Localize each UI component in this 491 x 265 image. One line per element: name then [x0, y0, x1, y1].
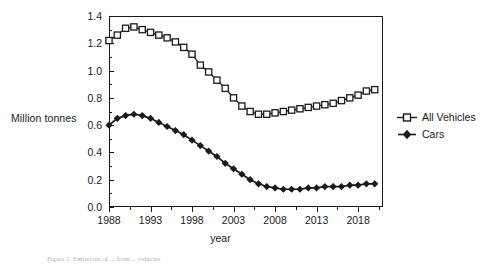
series-all-vehicles: [106, 24, 378, 118]
data-point-marker: [131, 24, 137, 30]
x-axis-tick: [358, 207, 359, 212]
data-point-marker: [164, 35, 170, 41]
x-axis-tick-label: 2018: [346, 214, 369, 226]
data-point-marker: [371, 180, 378, 187]
data-point-marker: [247, 108, 253, 114]
data-point-marker: [271, 184, 278, 191]
filled-diamond-marker-icon: [396, 127, 418, 140]
y-axis-tick-label: 0.8: [76, 92, 102, 104]
y-axis-tick-label: 0.4: [76, 146, 102, 158]
x-axis-minor-tick: [379, 207, 380, 210]
data-point-marker: [372, 87, 378, 93]
data-point-marker: [139, 27, 145, 33]
x-axis-tick: [275, 207, 276, 212]
x-axis-tick-label: 1993: [139, 214, 162, 226]
legend-label-cars: Cars: [418, 128, 444, 140]
y-axis-title: Million tonnes: [11, 112, 77, 124]
data-point-marker: [297, 106, 303, 112]
data-point-marker: [363, 180, 370, 187]
x-axis-tick-label: 2013: [305, 214, 328, 226]
data-point-marker: [222, 85, 228, 91]
data-point-marker: [330, 183, 337, 190]
legend-item-cars: Cars: [396, 125, 491, 142]
data-point-marker: [330, 100, 336, 106]
data-point-marker: [338, 183, 345, 190]
data-point-marker: [296, 186, 303, 193]
data-point-marker: [255, 180, 262, 187]
y-axis-tick-label: 1.4: [76, 10, 102, 22]
data-point-marker: [172, 39, 178, 45]
data-point-marker: [288, 186, 295, 193]
data-point-marker: [197, 62, 203, 68]
x-axis-tick: [151, 207, 152, 212]
data-point-marker: [280, 108, 286, 114]
y-axis-tick-label: 1.2: [76, 37, 102, 49]
data-point-marker: [181, 44, 187, 50]
data-point-marker: [139, 112, 146, 119]
x-axis-tick: [317, 207, 318, 212]
data-point-marker: [255, 111, 261, 117]
data-point-marker: [338, 97, 344, 103]
data-point-marker: [321, 183, 328, 190]
x-axis-tick: [234, 207, 235, 212]
x-axis-tick-label: 2003: [222, 214, 245, 226]
x-axis-tick: [109, 207, 110, 212]
x-axis-title-text: year: [210, 232, 230, 244]
figure-container: Million tonnes 0.00.20.40.60.81.01.21.4 …: [0, 0, 491, 265]
y-axis-tick-label: 1.0: [76, 65, 102, 77]
data-point-marker: [347, 95, 353, 101]
data-point-marker: [289, 107, 295, 113]
data-point-marker: [354, 182, 361, 189]
data-point-marker: [263, 183, 270, 190]
legend-label-all-vehicles: All Vehicles: [418, 111, 476, 123]
data-point-marker: [322, 102, 328, 108]
data-point-marker: [272, 110, 278, 116]
data-point-marker: [172, 127, 179, 134]
figure-caption: Figure 2. Emissions of ... from ... vehi…: [47, 255, 347, 265]
data-point-marker: [239, 103, 245, 109]
data-point-marker: [305, 104, 311, 110]
data-point-marker: [147, 29, 153, 35]
data-point-marker: [114, 32, 120, 38]
x-axis-tick-label: 1998: [180, 214, 203, 226]
x-axis-minor-tick: [171, 207, 172, 210]
data-point-marker: [305, 184, 312, 191]
x-axis-title: year: [0, 232, 491, 244]
data-point-marker: [346, 182, 353, 189]
data-point-marker: [164, 123, 171, 130]
data-point-marker: [189, 51, 195, 57]
x-axis-minor-tick: [296, 207, 297, 210]
open-square-marker-icon: [396, 110, 418, 123]
data-point-marker: [130, 111, 137, 118]
data-point-marker: [313, 103, 319, 109]
data-point-marker: [363, 88, 369, 94]
data-point-marker: [280, 186, 287, 193]
data-point-marker: [230, 95, 236, 101]
data-point-marker: [147, 115, 154, 122]
data-point-marker: [206, 69, 212, 75]
x-axis-tick-label: 1988: [97, 214, 120, 226]
y-axis-tick-label: 0.2: [76, 174, 102, 186]
data-point-marker: [214, 77, 220, 83]
x-axis-minor-tick: [254, 207, 255, 210]
legend-item-all-vehicles: All Vehicles: [396, 108, 491, 125]
y-axis-tick-label: 0.6: [76, 119, 102, 131]
chart-plot-area: [109, 16, 383, 207]
data-point-marker: [122, 112, 129, 119]
series-line: [109, 114, 375, 189]
data-point-marker: [156, 32, 162, 38]
x-axis-minor-tick: [130, 207, 131, 210]
series-cars: [105, 111, 378, 193]
x-axis-tick-label: 2008: [263, 214, 286, 226]
data-point-marker: [123, 25, 129, 31]
chart-legend: All Vehicles Cars: [396, 108, 491, 142]
y-axis-tick-label: 0.0: [76, 201, 102, 213]
data-point-marker: [313, 184, 320, 191]
data-point-marker: [106, 37, 112, 43]
data-point-marker: [155, 119, 162, 126]
x-axis-minor-tick: [213, 207, 214, 210]
data-point-marker: [355, 92, 361, 98]
x-axis-tick: [192, 207, 193, 212]
data-point-marker: [264, 111, 270, 117]
x-axis-minor-tick: [337, 207, 338, 210]
